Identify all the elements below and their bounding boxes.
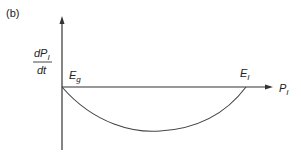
y-axis-label: dPI dt (33, 47, 52, 76)
x-axis-label: PI (279, 82, 289, 97)
point-label-eg: Eg (69, 69, 81, 84)
y-axis-arrow-icon (60, 16, 65, 24)
y-label-denominator: dt (37, 64, 47, 76)
svg-text:dPI: dPI (34, 47, 50, 62)
y-label-numerator: dP (34, 47, 48, 59)
y-label-numerator-sub: I (47, 53, 50, 62)
point-label-ei: EI (240, 67, 250, 82)
phase-diagram: (b) dPI dt Eg EI PI (0, 0, 301, 157)
x-axis-arrow-icon (265, 85, 273, 90)
rate-curve (62, 87, 246, 131)
panel-label: (b) (6, 7, 19, 19)
